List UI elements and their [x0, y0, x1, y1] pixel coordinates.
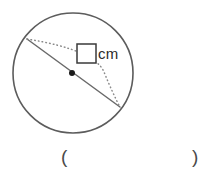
answer-paren-left: ( [61, 147, 67, 166]
circle-diagram [0, 0, 212, 176]
unit-label-cm: cm [98, 46, 118, 62]
figure-container: cm ( ) [0, 0, 212, 176]
center-point-dot [69, 70, 75, 76]
answer-square-box[interactable] [77, 44, 96, 63]
answer-paren-right: ) [192, 147, 198, 166]
